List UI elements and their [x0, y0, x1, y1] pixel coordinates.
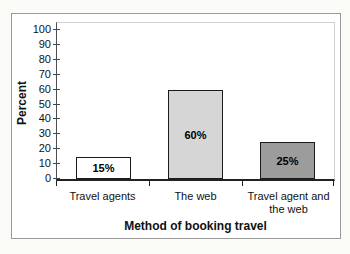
x-category-label: Travel agents [56, 190, 149, 216]
y-tick [53, 29, 60, 30]
bar-travel-agent-and-the-web: 25% [260, 142, 315, 179]
y-tick-label: 40 [21, 112, 51, 125]
y-tick [53, 44, 60, 45]
y-tick-label: 100 [21, 23, 51, 36]
plot-area: 010203040506070809010015%60%25% [56, 22, 335, 181]
y-tick-label: 10 [21, 157, 51, 170]
bar-travel-agents: 15% [76, 157, 131, 179]
x-tick [242, 181, 243, 186]
x-axis-title: Method of booking travel [56, 219, 335, 233]
x-category-label: Travel agent and the web [242, 190, 335, 216]
bar-value-label: 15% [92, 162, 114, 174]
y-tick [53, 178, 60, 179]
bar-value-label: 60% [184, 129, 206, 141]
y-tick-label: 90 [21, 38, 51, 51]
y-tick [53, 118, 60, 119]
y-tick [53, 133, 60, 134]
y-tick [53, 59, 60, 60]
bar-the-web: 60% [168, 90, 223, 179]
x-tick [149, 181, 150, 186]
y-tick-label: 30 [21, 127, 51, 140]
chart-frame: Percent 010203040506070809010015%60%25% … [11, 13, 341, 239]
y-tick-label: 60 [21, 83, 51, 96]
y-tick-label: 50 [21, 98, 51, 111]
y-tick [53, 104, 60, 105]
y-tick [53, 89, 60, 90]
y-tick [53, 74, 60, 75]
x-tick [56, 181, 57, 186]
y-tick-label: 20 [21, 142, 51, 155]
bar-value-label: 25% [276, 155, 298, 167]
y-tick-label: 70 [21, 68, 51, 81]
y-tick-label: 0 [21, 172, 51, 185]
y-tick-label: 80 [21, 53, 51, 66]
x-category-labels: Travel agentsThe webTravel agent and the… [56, 190, 335, 216]
y-tick [53, 163, 60, 164]
x-category-label: The web [149, 190, 242, 216]
y-tick [53, 148, 60, 149]
x-tick [333, 181, 334, 186]
